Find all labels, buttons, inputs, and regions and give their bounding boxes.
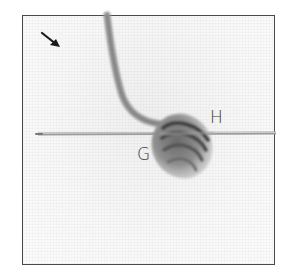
label-h: H	[210, 109, 223, 126]
yarn-strand	[107, 15, 160, 124]
label-g: G	[137, 146, 150, 163]
stitch-illustration	[0, 0, 286, 273]
arrow-icon	[42, 33, 60, 47]
